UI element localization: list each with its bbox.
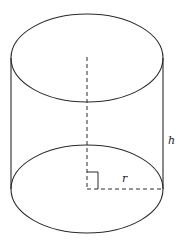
right-angle-marker	[87, 172, 98, 189]
radius-label: r	[122, 172, 128, 185]
cylinder-diagram: h r	[0, 0, 184, 246]
height-label: h	[168, 134, 175, 147]
